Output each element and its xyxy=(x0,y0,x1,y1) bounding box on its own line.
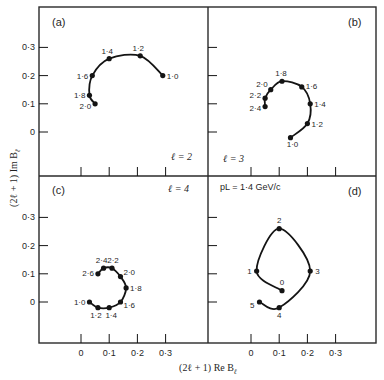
point-label: 1·8 xyxy=(130,284,142,293)
point-label: 1·4 xyxy=(314,100,326,109)
point-label: 4 xyxy=(277,311,282,320)
data-point xyxy=(268,87,273,92)
point-label: 2·2 xyxy=(250,91,262,100)
panel-annotation: ℓ = 2 xyxy=(171,151,192,162)
data-point xyxy=(263,96,268,101)
x-tick-label: 0·1 xyxy=(273,348,286,358)
x-tick-label: 0·2 xyxy=(131,348,144,358)
x-tick-label: 0·1 xyxy=(103,348,116,358)
data-point xyxy=(277,305,282,310)
axis-ticks: 00·10·20·300·10·20·300·10·20·300·10·20·3 xyxy=(22,42,342,358)
data-point xyxy=(107,56,112,61)
x-tick-label: 0·3 xyxy=(159,348,172,358)
point-label: 2·6 xyxy=(82,269,94,278)
point-label: 2·2 xyxy=(107,256,119,265)
panel-annotation: ℓ = 3 xyxy=(223,153,244,164)
data-point xyxy=(308,268,313,273)
y-tick-label: 0·3 xyxy=(22,212,35,222)
point-label: 1·4 xyxy=(101,47,113,56)
panel-letter: (a) xyxy=(52,16,65,28)
data-point xyxy=(101,266,106,271)
data-point xyxy=(263,104,268,109)
data-point xyxy=(277,226,282,231)
x-tick-label: 0·2 xyxy=(301,348,314,358)
panel-annotation: ℓ = 4 xyxy=(168,183,189,194)
point-label: 2·0 xyxy=(256,80,268,89)
point-label: 2·0 xyxy=(80,102,92,111)
data-point xyxy=(93,101,98,106)
point-label: 1·0 xyxy=(287,140,299,149)
point-label: 3 xyxy=(315,267,320,276)
panel-a: (a)ℓ = 21·01·21·41·61·82·0 xyxy=(52,16,192,162)
panel-letter: (b) xyxy=(348,16,361,28)
y-tick-label: 0·2 xyxy=(22,241,35,251)
panel-letter: (d) xyxy=(348,185,361,197)
panel-letter: (c) xyxy=(52,184,65,196)
point-label: 1·2 xyxy=(132,44,144,53)
panel-b: (b)ℓ = 31·01·21·41·61·82·02·22·4 xyxy=(223,16,361,164)
point-label: 1·2 xyxy=(90,311,102,320)
data-point xyxy=(279,79,284,84)
data-point xyxy=(95,305,100,310)
data-point xyxy=(87,299,92,304)
point-label: 1·6 xyxy=(123,301,135,310)
point-label: 1·8 xyxy=(275,69,287,78)
y-tick-label: 0·1 xyxy=(22,99,35,109)
point-label: 1·8 xyxy=(74,91,86,100)
data-point xyxy=(124,285,129,290)
point-label: 2·0 xyxy=(123,268,135,277)
point-label: 2 xyxy=(277,216,282,225)
panel-c: (c)ℓ = 41·01·21·41·61·82·02·22·42·6 xyxy=(52,183,189,320)
data-point xyxy=(95,271,100,276)
data-point xyxy=(279,288,284,293)
trajectory-curve xyxy=(257,229,311,309)
point-label: 2·4 xyxy=(96,256,108,265)
y-tick-label: 0·1 xyxy=(22,269,35,279)
x-axis-title: (2ℓ + 1) Re Bℓ xyxy=(179,362,237,376)
y-tick-label: 0 xyxy=(30,127,35,137)
point-label: 1·6 xyxy=(306,82,318,91)
figure-canvas: 00·10·20·300·10·20·300·10·20·300·10·20·3… xyxy=(0,0,384,380)
point-label: 1·6 xyxy=(77,72,89,81)
data-point xyxy=(118,299,123,304)
panel-annotation: pL = 1·4 GeV/c xyxy=(220,182,281,192)
data-point xyxy=(107,305,112,310)
data-point xyxy=(109,266,114,271)
y-tick-label: 0·3 xyxy=(22,42,35,52)
x-tick-label: 0 xyxy=(248,348,253,358)
data-point xyxy=(90,73,95,78)
data-point xyxy=(87,93,92,98)
y-axis-title: (2ℓ + 1) Im Bℓ xyxy=(8,149,22,207)
point-label: 1 xyxy=(247,267,252,276)
data-point xyxy=(160,73,165,78)
data-point xyxy=(257,299,262,304)
data-point xyxy=(118,274,123,279)
svg-text:(2ℓ + 1) Im Bℓ: (2ℓ + 1) Im Bℓ xyxy=(8,149,22,207)
point-label: 2·4 xyxy=(250,104,262,113)
y-tick-label: 0 xyxy=(30,297,35,307)
data-point xyxy=(305,121,310,126)
data-point xyxy=(138,53,143,58)
data-point xyxy=(254,268,259,273)
panel-d: (d)pL = 1·4 GeV/c012345 xyxy=(220,182,361,320)
point-label: 1·2 xyxy=(311,120,323,129)
point-label: 5 xyxy=(250,301,255,310)
trajectory-curve xyxy=(89,55,163,104)
point-label: 1·0 xyxy=(74,298,86,307)
point-label: 1·4 xyxy=(105,311,117,320)
point-label: 1·0 xyxy=(167,72,179,81)
x-tick-label: 0·3 xyxy=(329,348,342,358)
point-label: 0 xyxy=(280,278,285,287)
data-point xyxy=(308,101,313,106)
x-tick-label: 0 xyxy=(78,348,83,358)
data-point xyxy=(299,84,304,89)
panels: (a)ℓ = 21·01·21·41·61·82·0(b)ℓ = 31·01·2… xyxy=(52,16,361,320)
y-tick-label: 0·2 xyxy=(22,71,35,81)
